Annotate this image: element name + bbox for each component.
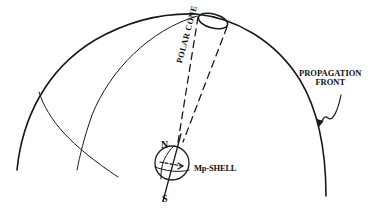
diagram-drawing xyxy=(0,0,392,218)
propagation-front-label: PROPAGATION FRONT xyxy=(299,69,362,86)
propagation-front-label-line2: FRONT xyxy=(299,78,362,87)
propagation-front-pointer xyxy=(319,95,341,125)
polar-cone-edge-right xyxy=(183,27,227,142)
mp-shell-label: Mp-SHELL xyxy=(194,164,236,173)
polar-cone-diagram: POLAR CONE N S Mp-SHELL PROPAGATION FRON… xyxy=(0,0,392,218)
south-label: S xyxy=(162,194,168,204)
north-label: N xyxy=(161,140,168,150)
earth-globe xyxy=(155,146,189,180)
polar-cone-cap xyxy=(197,10,230,31)
